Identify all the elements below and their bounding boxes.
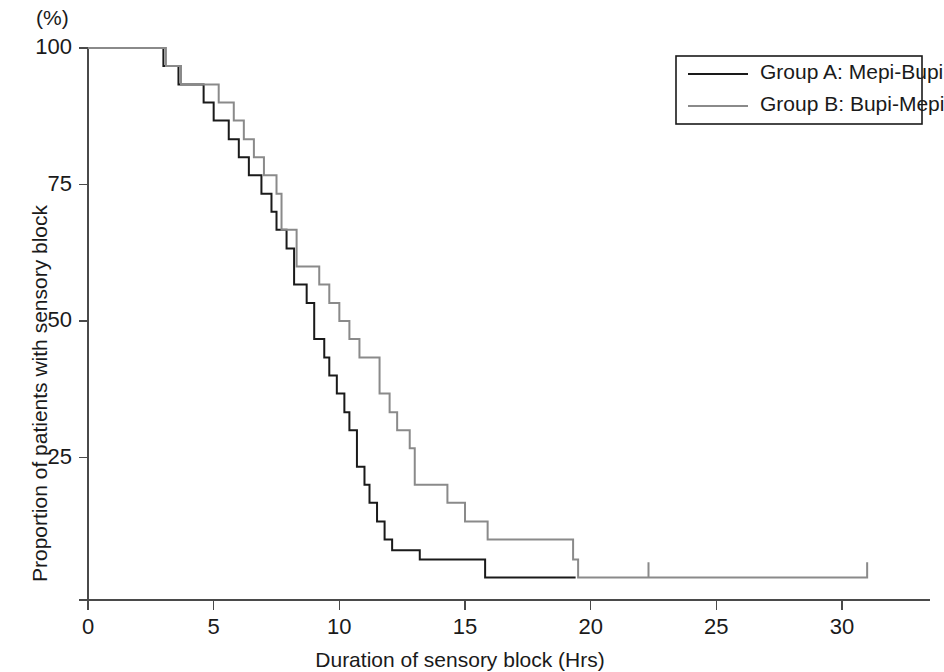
x-axis-tick-label: 25 [686, 614, 746, 640]
x-axis-tick-label: 20 [561, 614, 621, 640]
x-axis-tick-label: 0 [58, 614, 118, 640]
x-axis-tick-label: 30 [812, 614, 872, 640]
x-axis-tick-label: 10 [309, 614, 369, 640]
x-axis-title: Duration of sensory block (Hrs) [230, 648, 690, 672]
legend-label-group-a: Group A: Mepi-Bupi [760, 60, 943, 84]
y-axis-tick-label: 75 [48, 171, 72, 197]
series-step-line-group-a [88, 48, 576, 578]
y-axis-tick-label: 100 [35, 34, 72, 60]
y-axis-title: Proportion of patients with sensory bloc… [28, 205, 52, 582]
series-step-line-group-b [88, 48, 867, 578]
x-axis-tick-label: 5 [184, 614, 244, 640]
legend-label-group-b: Group B: Bupi-Mepi [760, 92, 944, 116]
y-axis-unit-label: (%) [36, 6, 69, 30]
x-axis-tick-label: 15 [435, 614, 495, 640]
